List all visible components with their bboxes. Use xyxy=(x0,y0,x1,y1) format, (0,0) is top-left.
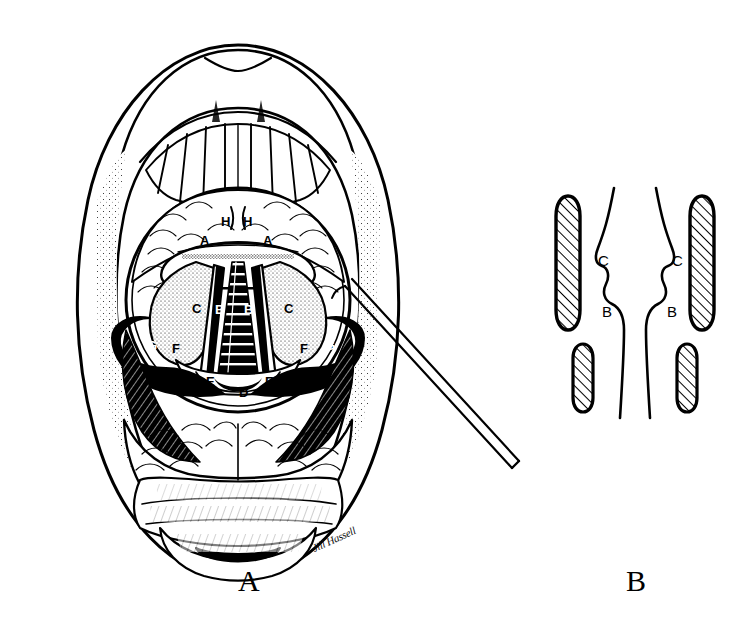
figure-canvas: H H A A C B B C G F F G E D E C C B B Ji… xyxy=(0,0,750,639)
epiglottis-free-edge-stipple xyxy=(182,254,294,259)
right-thyroid-cartilage xyxy=(690,196,714,330)
tongue-tip-texture xyxy=(176,534,304,552)
left-thyroid-cartilage xyxy=(556,196,580,330)
left-cricoid-cartilage xyxy=(573,344,593,412)
left-laryngeal-wall xyxy=(596,188,624,418)
right-laryngeal-wall xyxy=(646,188,674,418)
right-cricoid-cartilage xyxy=(677,344,697,412)
panel-b-schematic xyxy=(556,188,714,418)
anatomical-illustration xyxy=(0,0,750,639)
